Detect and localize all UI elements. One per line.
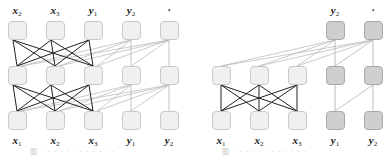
- caption-right: 图 · · · · · · · · · · · ·: [222, 146, 307, 156]
- label-top-x2: x2: [2, 4, 32, 20]
- node-r-r2-c5: [364, 66, 383, 85]
- node-l-r1-c2: [46, 21, 65, 40]
- label-bottom-y2-right: y2: [358, 134, 387, 150]
- label-top-y2: y2: [116, 4, 146, 20]
- node-r-r3-c3: [288, 111, 307, 130]
- node-l-r1-c4: [122, 21, 141, 40]
- node-l-r3-c2: [46, 111, 65, 130]
- node-r-r1-c4: [326, 21, 345, 40]
- node-r-r3-c2: [250, 111, 269, 130]
- node-l-r3-c3: [84, 111, 103, 130]
- node-l-r3-c1: [8, 111, 27, 130]
- node-l-r1-c1: [8, 21, 27, 40]
- node-r-r2-c1: [212, 66, 231, 85]
- node-r-r2-c2: [250, 66, 269, 85]
- label-bottom-y1-right: y1: [320, 134, 350, 150]
- node-l-r1-c3: [84, 21, 103, 40]
- label-top-dot: ·: [154, 4, 184, 20]
- node-r-r3-c5: [364, 111, 383, 130]
- node-r-r1-c5: [364, 21, 383, 40]
- node-r-r2-c3: [288, 66, 307, 85]
- label-bottom-y2: y2: [154, 134, 184, 150]
- label-top-y1: y1: [78, 4, 108, 20]
- node-l-r1-c5: [160, 21, 179, 40]
- node-l-r2-c5: [160, 66, 179, 85]
- node-l-r2-c3: [84, 66, 103, 85]
- caption-left: 图 · · · · · · · · · · · ·: [30, 146, 115, 156]
- label-top-x3: x3: [40, 4, 70, 20]
- node-l-r3-c5: [160, 111, 179, 130]
- label-bottom-y1: y1: [116, 134, 146, 150]
- node-r-r2-c4: [326, 66, 345, 85]
- node-l-r2-c4: [122, 66, 141, 85]
- label-top-dot-right: ·: [358, 4, 387, 20]
- label-bottom-x1: x1: [2, 134, 32, 150]
- node-r-r3-c4: [326, 111, 345, 130]
- node-r-r3-c1: [212, 111, 231, 130]
- node-l-r2-c1: [8, 66, 27, 85]
- node-l-r2-c2: [46, 66, 65, 85]
- node-l-r3-c4: [122, 111, 141, 130]
- label-top-y2-right: y2: [320, 4, 350, 20]
